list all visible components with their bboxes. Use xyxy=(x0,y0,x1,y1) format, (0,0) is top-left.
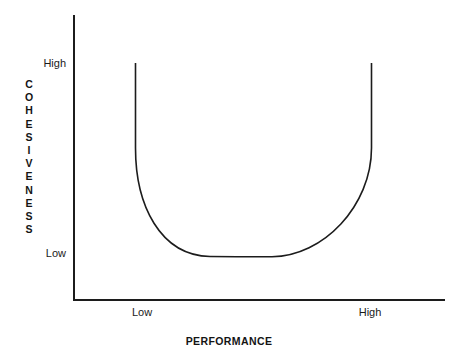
x-axis-line xyxy=(73,299,445,301)
y-tick-label-low: Low xyxy=(0,247,66,260)
y-axis-title-letter: I xyxy=(28,144,31,157)
chart-figure: High Low Low High C O H E S I V E N E S … xyxy=(0,0,458,363)
y-tick-label-high: High xyxy=(0,57,66,70)
y-axis-title-letter: E xyxy=(25,170,32,183)
y-axis-line xyxy=(73,15,75,301)
y-axis-title-letter: C xyxy=(25,78,33,91)
y-axis-title-letter: E xyxy=(25,197,32,210)
y-axis-title-letter: E xyxy=(25,118,32,131)
y-axis-title-letter: O xyxy=(25,91,33,104)
y-axis-title-letter: S xyxy=(25,131,32,144)
x-tick-label-high: High xyxy=(340,306,400,319)
x-tick-label-low: Low xyxy=(112,306,172,319)
y-axis-title-letter: H xyxy=(25,104,33,117)
y-axis-title-letter: V xyxy=(25,157,32,170)
y-axis-title: C O H E S I V E N E S S xyxy=(18,78,40,236)
y-axis-title-letter: S xyxy=(25,223,32,236)
x-axis-title: PERFORMANCE xyxy=(0,335,458,347)
y-axis-title-letter: N xyxy=(25,184,33,197)
y-axis-title-letter: S xyxy=(25,210,32,223)
